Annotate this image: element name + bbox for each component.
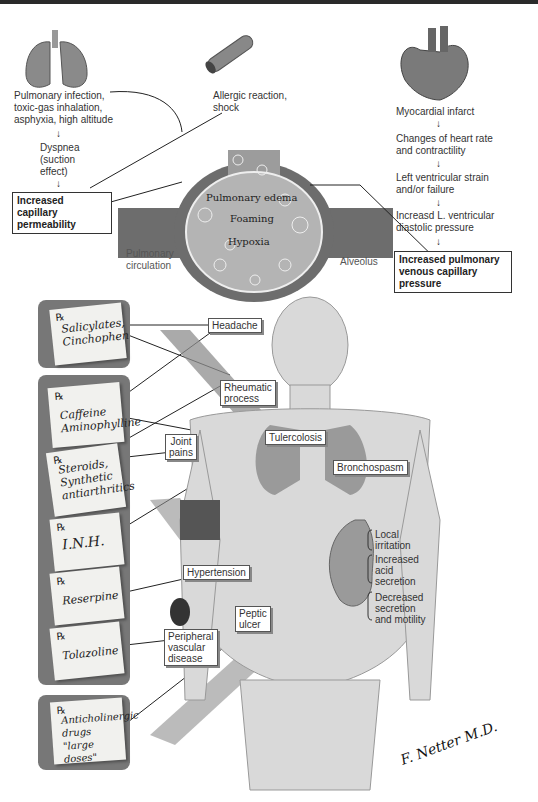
local-irritation-text: Localirritation xyxy=(375,529,411,551)
hypoxia-label: Hypoxia xyxy=(228,236,270,247)
arrow-down-icon: ↓ xyxy=(56,128,61,139)
tuberculosis-label: Tulercolosis xyxy=(265,430,326,445)
rx-note-caffeine: ℞ CaffeineAminophylline xyxy=(48,382,125,448)
arrow-down-icon: ↓ xyxy=(56,178,61,189)
peptic-ulcer-label: Pepticulcer xyxy=(235,606,271,632)
heart-chain-2: Changes of heart rate and contractility xyxy=(396,133,493,157)
heart-chain-3: Left ventricular strain and/or failure xyxy=(396,172,489,196)
venous-pressure-box: Increased pulmonary venous capillary pre… xyxy=(394,251,512,293)
rx-icon: ℞ xyxy=(56,630,66,642)
arrow-down-icon: ↓ xyxy=(436,158,441,169)
arrow-down-icon: ↓ xyxy=(436,236,441,247)
rx-icon: ℞ xyxy=(54,390,64,402)
bp-cuff xyxy=(180,500,220,540)
headache-label: Headache xyxy=(208,318,262,333)
bp-bulb xyxy=(170,598,190,626)
heart-chain-4: Increasd L. ventricular diastolic pressu… xyxy=(396,210,494,234)
rx-note-inh: ℞ I.N.H. xyxy=(49,512,124,571)
arrow-down-icon: ↓ xyxy=(436,197,441,208)
arrow-down-icon: ↓ xyxy=(436,118,441,129)
rx-note-steroids: ℞ Steroids,Syntheticantiarthritics xyxy=(46,443,126,516)
dyspnea-text: Dyspnea (suction effect) xyxy=(40,142,79,178)
rx-note-reserpine: ℞ Reserpine xyxy=(49,566,124,625)
bronchospasm-label: Bronchospasm xyxy=(333,460,408,475)
heart-icon xyxy=(401,26,468,100)
decreased-secretion-text: Decreasedsecretionand motility xyxy=(375,592,426,625)
hypertension-label: Hypertension xyxy=(183,565,250,580)
rx-note-salicylates: ℞ Salicylates,Cinchophen xyxy=(49,302,126,365)
lungs-icon xyxy=(26,30,87,87)
rx-note-anticholinergic: ℞ Anticholinergicdrugs"large doses" xyxy=(50,698,126,765)
rx-icon: ℞ xyxy=(56,521,66,533)
peripheral-vascular-label: Peripheralvasculardisease xyxy=(164,629,218,666)
pulmonary-circulation-label: Pulmonary circulation xyxy=(126,248,174,272)
blood-vessel-icon xyxy=(203,33,255,75)
pulmonary-edema-label: Pulmonary edema xyxy=(206,192,298,203)
increased-acid-text: Increasedacidsecretion xyxy=(375,554,419,587)
lung-causes-text: Pulmonary infection, toxic-gas inhalatio… xyxy=(14,90,113,126)
rx-note-tolazoline: ℞ Tolazoline xyxy=(49,621,124,680)
alveolus-diagram xyxy=(118,150,393,302)
alveolus-label: Alveolus xyxy=(340,256,378,268)
joint-pains-label: Jointpains xyxy=(165,434,197,460)
rx-icon: ℞ xyxy=(56,575,66,587)
heart-chain-1: Myocardial infarct xyxy=(396,106,474,118)
allergic-reaction-text: Allergic reaction, shock xyxy=(213,90,287,114)
foaming-label: Foaming xyxy=(230,213,274,224)
rheumatic-process-label: Rheumaticprocess xyxy=(220,380,276,406)
capillary-permeability-box: Increased capillary permeability xyxy=(12,192,112,234)
